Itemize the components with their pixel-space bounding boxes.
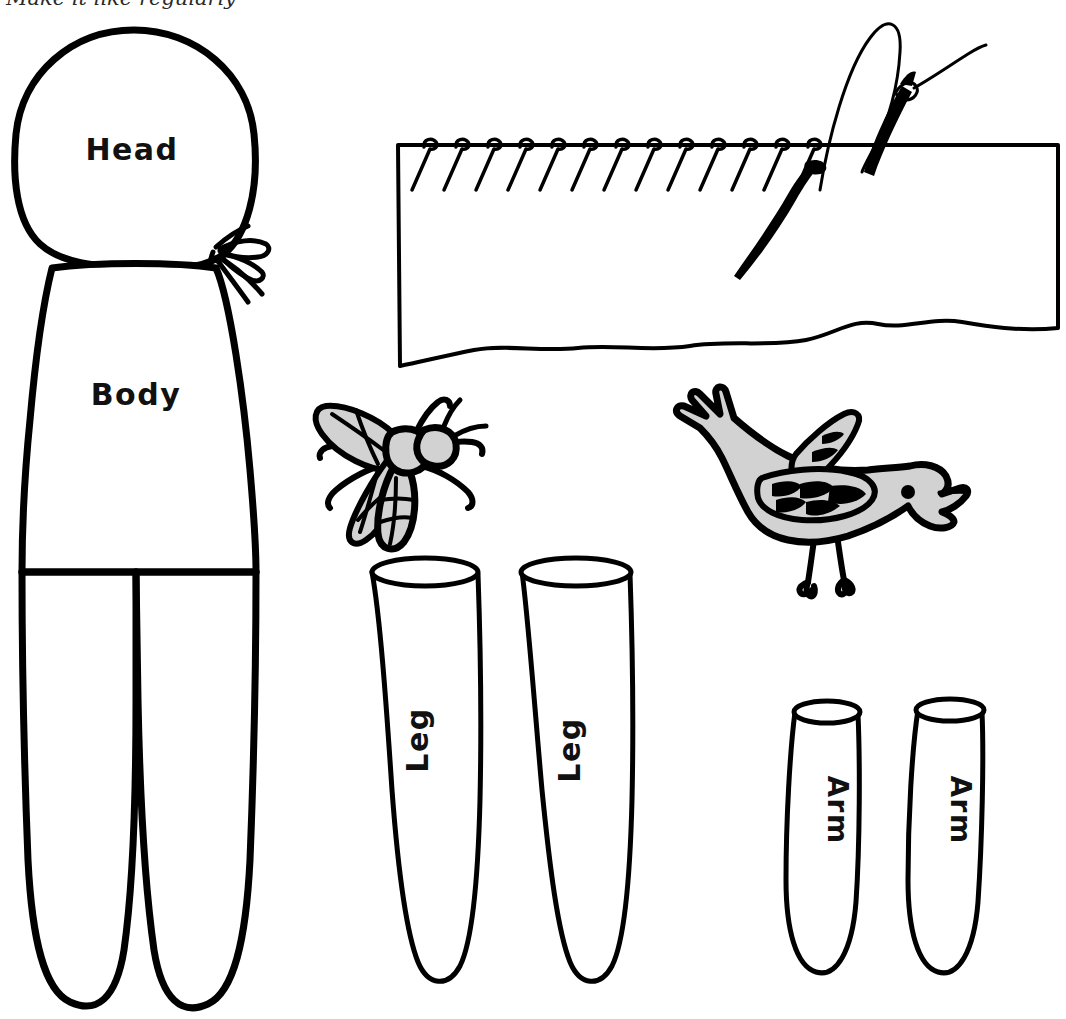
pattern-label-arm-right: Arm: [944, 775, 977, 844]
arm-pieces-layer: Arm Arm: [0, 0, 1066, 1019]
pattern-sheet-page: Make it like regularly Head Body: [0, 0, 1066, 1019]
arm-left-opening: [794, 701, 860, 723]
pattern-piece-arm-left[interactable]: Arm: [786, 701, 860, 973]
arm-right-opening: [916, 699, 984, 721]
pattern-label-arm-left: Arm: [821, 775, 854, 844]
pattern-piece-arm-right[interactable]: Arm: [908, 699, 984, 973]
